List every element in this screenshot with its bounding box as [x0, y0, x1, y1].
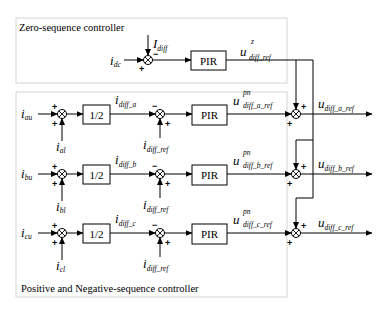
sum2-diff-sign: −	[152, 101, 157, 111]
input-summing-junction	[58, 170, 67, 179]
sum2-diff-sign: −	[152, 161, 157, 171]
sum3-top-sign: +	[301, 162, 306, 172]
svg-text:1/2: 1/2	[89, 109, 103, 121]
svg-text:1/2: 1/2	[89, 169, 103, 181]
phase-a-row: iau + + ial 1/2 idiff_a − + idiff_ref P	[21, 88, 372, 155]
sum1-bottom-sign: +	[52, 179, 57, 189]
svg-text:pn: pn	[242, 88, 251, 97]
input-summing-junction	[58, 229, 67, 238]
zero-minus-sign: −	[153, 49, 158, 59]
sum1-bottom-sign: +	[52, 119, 57, 129]
lower-arm-current-label: ibl	[56, 199, 65, 215]
zero-summing-junction	[144, 56, 153, 65]
svg-text:1/2: 1/2	[89, 228, 103, 240]
svg-text:pn: pn	[242, 207, 251, 216]
svg-text:u: u	[233, 212, 240, 227]
sum3-top-sign: +	[301, 102, 306, 112]
gain-block: 1/2	[83, 165, 110, 184]
final-output-label: udiff_c_ref	[318, 215, 354, 232]
diff-ref-label: idiff_ref	[143, 256, 169, 273]
lower-arm-current-label: icl	[56, 258, 65, 274]
zero-sequence-title: Zero-sequence controller	[19, 22, 125, 33]
zero-output-label: u z diff_ref	[240, 37, 272, 62]
control-block-diagram: Zero-sequence controller idc Idiff − + P…	[0, 0, 387, 311]
sum3-left-sign: +	[287, 179, 292, 189]
sum2-ref-sign: +	[165, 179, 170, 189]
zero-input-label: idc	[110, 53, 121, 69]
pn-output-label: u pn diff_c_ref	[233, 207, 273, 229]
output-summing-junction	[292, 229, 301, 238]
zero-pir-label: PIR	[200, 55, 218, 67]
pos-neg-sequence-title: Positive and Negative-sequence controlle…	[21, 283, 199, 294]
diff-current-label: idiff_a	[115, 92, 136, 109]
diff-current-label: idiff_c	[115, 211, 136, 228]
sum1-bottom-sign: +	[52, 238, 57, 248]
pir-block: PIR	[192, 224, 227, 244]
sum1-top-sign: +	[52, 162, 57, 172]
input-summing-junction	[58, 110, 67, 119]
sum2-ref-sign: +	[165, 238, 170, 248]
lower-arm-current-label: ial	[56, 139, 65, 155]
output-summing-junction	[292, 110, 301, 119]
output-summing-junction	[292, 170, 301, 179]
sum3-left-sign: +	[287, 238, 292, 248]
svg-text:z: z	[250, 37, 254, 46]
gain-block: 1/2	[83, 224, 110, 243]
zero-sequence-distribution-wiring	[226, 60, 313, 229]
diff-current-label: idiff_b	[115, 152, 136, 169]
svg-text:u: u	[233, 153, 240, 168]
svg-text:diff_c_ref: diff_c_ref	[243, 220, 273, 229]
upper-arm-current-label: iau	[21, 106, 32, 122]
sum3-top-sign: +	[301, 221, 306, 231]
svg-text:pn: pn	[242, 148, 251, 157]
pn-output-label: u pn diff_a_ref	[233, 88, 273, 110]
sum2-diff-sign: −	[152, 220, 157, 230]
phase-c-row: icu + + icl 1/2 idiff_c − + idiff_ref P	[21, 207, 372, 274]
diff-ref-label: idiff_ref	[143, 137, 169, 154]
upper-arm-current-label: ibu	[21, 166, 32, 182]
svg-text:u: u	[240, 44, 247, 59]
sum1-top-sign: +	[52, 102, 57, 112]
zero-plus-sign: +	[139, 64, 144, 74]
upper-arm-current-label: icu	[21, 225, 32, 241]
diff-ref-label: idiff_ref	[143, 197, 169, 214]
pir-block: PIR	[192, 165, 227, 185]
sum2-ref-sign: +	[165, 119, 170, 129]
zero-feed-to-phase-c	[226, 60, 313, 229]
svg-text:u: u	[233, 93, 240, 108]
sum3-left-sign: +	[287, 119, 292, 129]
svg-text:PIR: PIR	[201, 109, 219, 121]
svg-text:diff_a_ref: diff_a_ref	[243, 101, 273, 110]
zero-sequence-panel: Zero-sequence controller idc Idiff − + P…	[16, 18, 287, 83]
phase-b-row: ibu + + ibl 1/2 idiff_b − + idiff_ref P	[21, 148, 372, 215]
pir-block: PIR	[192, 105, 227, 125]
svg-text:diff_ref: diff_ref	[249, 53, 272, 62]
sum1-top-sign: +	[52, 221, 57, 231]
zero-pir-block: PIR	[191, 51, 226, 70]
final-output-label: udiff_b_ref	[318, 156, 355, 173]
svg-text:PIR: PIR	[201, 169, 219, 181]
svg-text:diff_b_ref: diff_b_ref	[243, 161, 273, 170]
gain-block: 1/2	[83, 105, 110, 124]
svg-text:PIR: PIR	[201, 228, 219, 240]
final-output-label: udiff_a_ref	[318, 96, 355, 113]
pn-output-label: u pn diff_b_ref	[233, 148, 273, 170]
